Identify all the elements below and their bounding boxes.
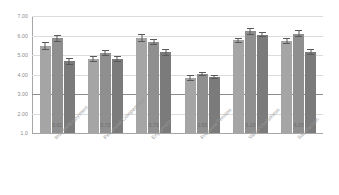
error-bar-cap: [295, 36, 302, 37]
y-tick-label: 5.00: [18, 52, 29, 58]
bar[interactable]: [281, 41, 292, 133]
error-bar-cap: [247, 28, 254, 29]
group-data-label: 6.05: [294, 122, 304, 128]
error-bar: [250, 28, 251, 35]
error-bar-cap: [187, 80, 194, 81]
error-bar-cap: [211, 78, 218, 79]
error-bar-cap: [66, 58, 73, 59]
error-bar-cap: [162, 49, 169, 50]
bar-slot: [281, 16, 292, 133]
error-bar-cap: [90, 61, 97, 62]
error-bar: [262, 32, 263, 38]
error-bar-cap: [114, 61, 121, 62]
error-bar-cap: [283, 43, 290, 44]
bar[interactable]: [185, 78, 196, 133]
y-tick-label: 2.00: [18, 111, 29, 117]
bar-cluster: [281, 16, 316, 133]
bar-cluster: [233, 16, 268, 133]
bar[interactable]: [293, 34, 304, 133]
error-bar: [165, 49, 166, 56]
error-bar: [57, 35, 58, 42]
y-tick-label: 6.00: [18, 33, 29, 39]
bar-slot: [160, 16, 171, 133]
error-bar-cap: [247, 34, 254, 35]
bar[interactable]: [88, 59, 99, 133]
bar-slot: [233, 16, 244, 133]
error-bar-cap: [54, 35, 61, 36]
error-bar-cap: [102, 50, 109, 51]
error-bar: [105, 50, 106, 56]
error-bar-cap: [211, 75, 218, 76]
error-bar-cap: [162, 55, 169, 56]
error-bar-cap: [102, 55, 109, 56]
error-bar-cap: [295, 30, 302, 31]
error-bar-cap: [138, 41, 145, 42]
bar-slot: [100, 16, 111, 133]
bar-slot: [148, 16, 159, 133]
error-bar-cap: [114, 56, 121, 57]
bar-cluster: [40, 16, 75, 133]
error-bar: [153, 39, 154, 45]
bar-slot: [88, 16, 99, 133]
x-label-cell: Pressure/Tension: [179, 134, 228, 194]
error-bar: [45, 42, 46, 50]
bar[interactable]: [40, 46, 51, 133]
bar-slot: [197, 16, 208, 133]
error-bar-cap: [307, 54, 314, 55]
y-tick-label: 3.00: [18, 91, 29, 97]
y-tick-label: 4.00: [18, 72, 29, 78]
error-bar: [93, 56, 94, 61]
bar-chart: 7.006.005.004.003.002.001.0 5.615.735.79…: [0, 0, 339, 195]
error-bar-cap: [199, 72, 206, 73]
error-bar: [190, 75, 191, 80]
bar[interactable]: [100, 53, 111, 133]
x-label-cell: Perceived Competence: [82, 134, 131, 194]
error-bar-cap: [259, 36, 266, 37]
bar-slot: [136, 16, 147, 133]
bar-slot: [52, 16, 63, 133]
bar-group: 5.79: [130, 16, 178, 133]
error-bar-cap: [150, 39, 157, 40]
bar[interactable]: [233, 40, 244, 133]
x-axis-category-labels: Interest/EnjoymentPerceived CompetenceEn…: [33, 134, 324, 194]
error-bar: [69, 58, 70, 65]
y-tick-label: 7.00: [18, 13, 29, 19]
error-bar-cap: [90, 56, 97, 57]
error-bar: [117, 56, 118, 62]
error-bar-cap: [199, 75, 206, 76]
error-bar-cap: [235, 38, 242, 39]
bar[interactable]: [245, 31, 256, 133]
x-label-cell: Enjoyment: [130, 134, 179, 194]
error-bar-cap: [66, 64, 73, 65]
error-bar: [286, 38, 287, 44]
bar[interactable]: [52, 38, 63, 133]
error-bar-cap: [283, 38, 290, 39]
bar-cluster: [185, 16, 220, 133]
error-bar-cap: [235, 42, 242, 43]
bar-slot: [185, 16, 196, 133]
bar[interactable]: [136, 38, 147, 133]
bar-cluster: [88, 16, 123, 133]
error-bar-cap: [42, 42, 49, 43]
error-bar-cap: [187, 75, 194, 76]
error-bar: [310, 49, 311, 55]
error-bar-cap: [42, 49, 49, 50]
error-bar: [214, 75, 215, 79]
error-bar: [141, 34, 142, 43]
x-label-cell: Satisfaction: [276, 134, 325, 194]
error-bar-cap: [138, 34, 145, 35]
error-bar: [298, 30, 299, 37]
bar-slot: [245, 16, 256, 133]
y-tick-label: 1.0: [20, 130, 28, 136]
error-bar-cap: [259, 32, 266, 33]
error-bar-cap: [54, 41, 61, 42]
error-bar: [238, 38, 239, 43]
error-bar-cap: [307, 49, 314, 50]
x-label-cell: Value/Usefulness: [227, 134, 276, 194]
error-bar-cap: [150, 44, 157, 45]
bar-slot: [40, 16, 51, 133]
bar-slot: [293, 16, 304, 133]
error-bar: [202, 72, 203, 76]
x-label-cell: Interest/Enjoyment: [33, 134, 82, 194]
bar[interactable]: [148, 42, 159, 133]
